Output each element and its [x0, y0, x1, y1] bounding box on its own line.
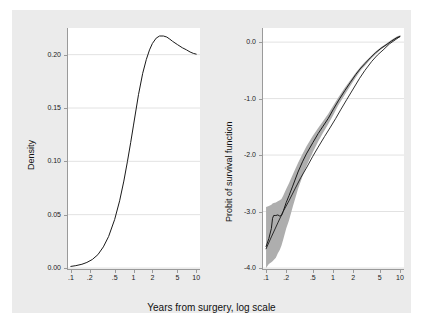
y-tick-mark: [64, 268, 68, 269]
x-tick-mark: [90, 269, 91, 273]
x-tick-mark: [333, 269, 334, 273]
y-tick-mark: [259, 268, 263, 269]
probit-curve-svg: [263, 28, 404, 268]
y-tick-mark: [64, 215, 68, 216]
right-y-axis-line: [262, 28, 263, 269]
x-tick-label: 10: [388, 274, 412, 282]
right-plot-area: [263, 28, 404, 268]
y-tick-mark: [259, 99, 263, 100]
x-tick-label: 2: [140, 274, 164, 282]
x-tick-mark: [115, 269, 116, 273]
x-tick-label: .2: [274, 274, 298, 282]
y-tick-label: -3.0: [223, 208, 256, 216]
x-tick-mark: [71, 269, 72, 273]
y-tick-mark: [64, 55, 68, 56]
panel-density: Density 0.000.050.100.150.20 .1.2.512510: [12, 10, 208, 313]
x-tick-mark: [196, 269, 197, 273]
y-tick-mark: [259, 155, 263, 156]
x-tick-mark: [400, 269, 401, 273]
y-tick-label: -1.0: [223, 95, 256, 103]
y-tick-mark: [64, 108, 68, 109]
y-tick-mark: [64, 161, 68, 162]
y-tick-label: 0.05: [28, 211, 61, 219]
figure-root: Density 0.000.050.100.150.20 .1.2.512510…: [0, 0, 423, 326]
panel-probit: Probit of survival function 0.0-1.0-2.0-…: [208, 10, 411, 313]
x-tick-mark: [353, 269, 354, 273]
x-tick-label: 10: [184, 274, 208, 282]
y-tick-label: 0.0: [223, 38, 256, 46]
x-tick-mark: [177, 269, 178, 273]
figure-canvas: Density 0.000.050.100.150.20 .1.2.512510…: [12, 10, 411, 313]
x-tick-mark: [380, 269, 381, 273]
left-plot-area: [68, 28, 200, 268]
density-curve-svg: [68, 28, 200, 268]
y-tick-mark: [259, 212, 263, 213]
left-y-axis-line: [67, 28, 68, 269]
x-tick-label: .2: [78, 274, 102, 282]
x-tick-mark: [286, 269, 287, 273]
left-y-axis-title: Density: [26, 140, 36, 170]
y-tick-label: 0.20: [28, 51, 61, 59]
x-tick-mark: [134, 269, 135, 273]
x-tick-mark: [152, 269, 153, 273]
x-tick-mark: [266, 269, 267, 273]
y-tick-label: 0.00: [28, 264, 61, 272]
shared-x-axis-title: Years from surgery, log scale: [12, 302, 411, 313]
y-tick-label: 0.10: [28, 157, 61, 165]
y-tick-mark: [259, 42, 263, 43]
y-tick-label: -2.0: [223, 151, 256, 159]
x-tick-label: 2: [341, 274, 365, 282]
y-tick-label: -4.0: [223, 264, 256, 272]
y-tick-label: 0.15: [28, 104, 61, 112]
x-tick-mark: [313, 269, 314, 273]
